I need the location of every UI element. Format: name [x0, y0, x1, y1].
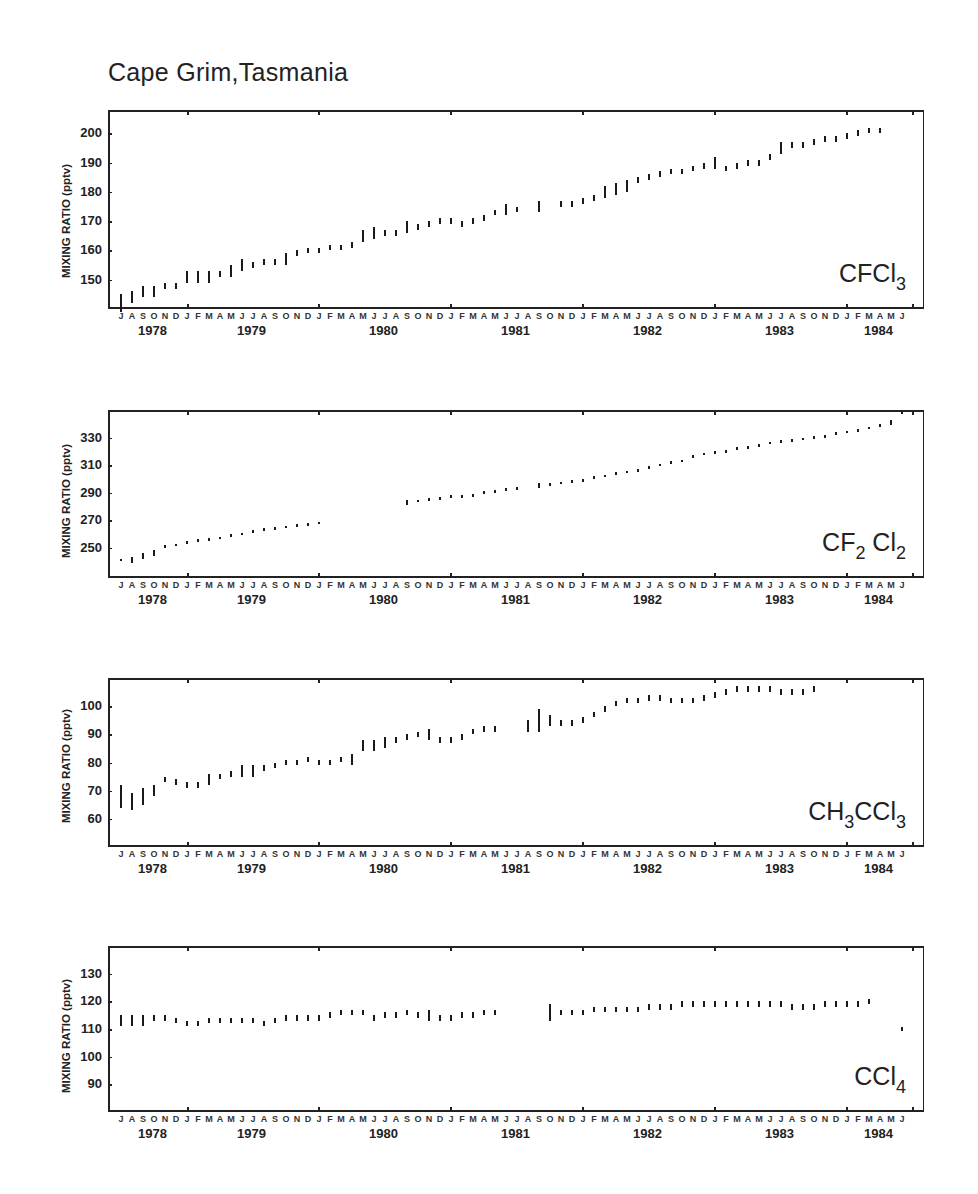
- data-point: [384, 230, 386, 236]
- y-tick-mark: [109, 465, 112, 467]
- x-month-label: S: [666, 1114, 676, 1124]
- data-point: [549, 715, 551, 726]
- data-point: [428, 221, 430, 227]
- x-month-label: O: [149, 849, 159, 859]
- data-point: [725, 689, 727, 695]
- x-month-label: O: [677, 1114, 687, 1124]
- data-point: [791, 142, 793, 148]
- x-month-label: J: [248, 849, 258, 859]
- x-month-label: M: [468, 580, 478, 590]
- data-point: [472, 1012, 474, 1018]
- x-month-label: D: [699, 849, 709, 859]
- y-tick-mark: [109, 819, 112, 821]
- x-month-label: D: [699, 1114, 709, 1124]
- data-point: [450, 1015, 452, 1021]
- x-month-label: F: [853, 849, 863, 859]
- data-point: [571, 1010, 573, 1016]
- data-point: [362, 1010, 364, 1016]
- y-tick-label: 90: [58, 1076, 102, 1091]
- x-month-label: S: [534, 1114, 544, 1124]
- data-point: [571, 480, 573, 483]
- x-tick-mark: [846, 1107, 848, 1111]
- data-point: [274, 1018, 276, 1024]
- x-month-label: S: [402, 311, 412, 321]
- x-month-label: D: [171, 311, 181, 321]
- x-month-label: F: [589, 1114, 599, 1124]
- x-month-label: J: [248, 580, 258, 590]
- y-tick-label: 120: [58, 993, 102, 1008]
- x-tick-mark: [582, 842, 584, 846]
- data-point: [725, 450, 727, 453]
- data-point: [296, 524, 298, 527]
- y-tick-label: 170: [58, 213, 102, 228]
- data-point: [263, 259, 265, 265]
- x-month-label: J: [578, 580, 588, 590]
- x-tick-mark: [714, 947, 716, 951]
- data-point: [483, 215, 485, 221]
- x-month-label: F: [589, 580, 599, 590]
- x-month-label: M: [864, 1114, 874, 1124]
- x-month-label: O: [545, 580, 555, 590]
- x-month-label: J: [380, 311, 390, 321]
- x-tick-mark: [582, 573, 584, 577]
- data-point: [758, 1001, 760, 1007]
- x-month-label: O: [149, 311, 159, 321]
- x-month-label: J: [248, 1114, 258, 1124]
- y-tick-label: 180: [58, 184, 102, 199]
- data-point: [461, 1012, 463, 1018]
- data-point: [703, 695, 705, 701]
- x-month-label: A: [787, 311, 797, 321]
- x-month-label: F: [457, 849, 467, 859]
- data-point: [186, 541, 188, 544]
- x-month-label: J: [897, 580, 907, 590]
- data-point: [802, 1004, 804, 1010]
- data-point: [164, 545, 166, 548]
- x-year-label: 1980: [369, 323, 398, 338]
- species-label: CF2 Cl2: [822, 528, 906, 564]
- data-point: [780, 689, 782, 695]
- data-point: [208, 774, 210, 785]
- data-point: [736, 1001, 738, 1007]
- y-tick-mark: [109, 1057, 112, 1059]
- data-point: [824, 1001, 826, 1007]
- data-point: [538, 483, 540, 489]
- data-point: [461, 495, 463, 498]
- x-month-label: M: [226, 1114, 236, 1124]
- data-point: [197, 1021, 199, 1027]
- data-point: [285, 526, 287, 529]
- data-point: [659, 1004, 661, 1010]
- data-point: [560, 482, 562, 485]
- x-tick-mark: [450, 111, 452, 115]
- x-month-label: O: [677, 849, 687, 859]
- x-month-label: A: [259, 1114, 269, 1124]
- data-point: [824, 136, 826, 142]
- plot-area-4: [108, 946, 924, 1112]
- x-month-label: S: [402, 849, 412, 859]
- data-point: [208, 538, 210, 541]
- data-point: [417, 500, 419, 503]
- x-year-label: 1979: [237, 592, 266, 607]
- data-point: [450, 495, 452, 498]
- data-point: [230, 534, 232, 537]
- x-month-label: J: [369, 849, 379, 859]
- data-point: [593, 195, 595, 201]
- x-month-label: D: [699, 580, 709, 590]
- x-month-label: J: [644, 580, 654, 590]
- data-point: [208, 271, 210, 283]
- data-point: [835, 1001, 837, 1007]
- x-month-label: S: [402, 1114, 412, 1124]
- y-tick-mark: [109, 221, 112, 223]
- data-point: [307, 248, 309, 254]
- x-month-label: J: [512, 1114, 522, 1124]
- x-month-label: J: [897, 849, 907, 859]
- x-tick-mark: [846, 679, 848, 683]
- x-month-label: F: [193, 580, 203, 590]
- data-point: [274, 259, 276, 265]
- data-point: [703, 453, 705, 456]
- data-point: [670, 1004, 672, 1010]
- x-month-label: A: [611, 849, 621, 859]
- x-month-label: N: [292, 1114, 302, 1124]
- data-point: [736, 686, 738, 692]
- x-tick-mark: [582, 304, 584, 308]
- x-month-label: N: [688, 849, 698, 859]
